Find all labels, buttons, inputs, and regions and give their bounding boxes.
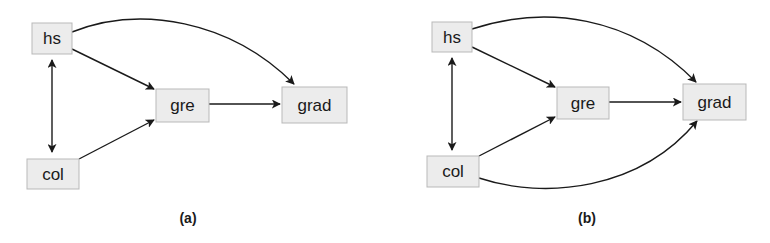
- node-grad-label: grad: [697, 93, 731, 112]
- node-gre: gre: [557, 87, 609, 119]
- node-gre-label: gre: [170, 96, 195, 115]
- node-col-label: col: [442, 162, 464, 181]
- node-gre-label: gre: [571, 94, 596, 113]
- node-col: col: [27, 159, 79, 189]
- panel-b: hs gre grad col (b): [427, 17, 746, 226]
- node-col: col: [427, 156, 479, 187]
- edge-hs-grad-curved: [72, 19, 294, 84]
- panel-a-caption: (a): [179, 210, 196, 226]
- node-grad: grad: [282, 87, 347, 123]
- node-col-label: col: [42, 165, 64, 184]
- node-hs: hs: [432, 22, 472, 52]
- node-gre: gre: [156, 89, 209, 122]
- node-grad: grad: [683, 84, 746, 120]
- edge-hs-gre: [72, 49, 154, 89]
- edge-hs-grad-curved: [472, 17, 696, 82]
- edge-col-gre: [479, 117, 555, 156]
- panel-b-caption: (b): [578, 210, 596, 226]
- node-hs-label: hs: [43, 29, 61, 48]
- panel-a: hs gre grad col (a): [27, 19, 347, 226]
- edge-hs-gre: [472, 47, 555, 87]
- diagram-canvas: hs gre grad col (a) hs gre: [0, 0, 770, 243]
- edge-col-gre: [79, 120, 154, 159]
- node-hs: hs: [32, 23, 72, 54]
- node-grad-label: grad: [297, 96, 331, 115]
- edge-col-grad-curved: [479, 121, 697, 188]
- node-hs-label: hs: [443, 28, 461, 47]
